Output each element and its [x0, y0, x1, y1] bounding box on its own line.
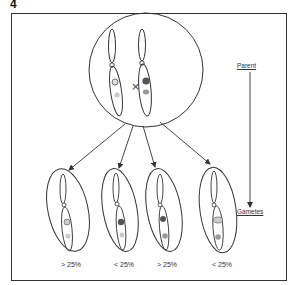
gametes-label: Gametes	[237, 208, 263, 215]
gamete-1-percent: > 25%	[61, 261, 81, 268]
parent-cell: ×	[89, 13, 203, 127]
gamete-3-percent: > 25%	[157, 261, 177, 268]
gamete-2-percent: < 25%	[114, 261, 134, 268]
band-open-icon	[112, 79, 118, 85]
division-arrows	[69, 122, 210, 170]
gamete-1	[40, 165, 97, 255]
band-light-icon	[114, 92, 119, 97]
band-dark-icon	[142, 77, 149, 84]
gamete-2	[96, 166, 144, 255]
gamete-4-percent: < 25%	[212, 261, 232, 268]
meiosis-diagram: ×	[0, 0, 294, 285]
gamete-4	[194, 165, 242, 255]
gamete-3	[140, 166, 188, 255]
parent-label: Parent	[237, 62, 256, 69]
parent-chromosome-right	[137, 29, 153, 116]
band-medium-icon	[143, 90, 149, 95]
parent-chromosome-left	[107, 29, 125, 117]
